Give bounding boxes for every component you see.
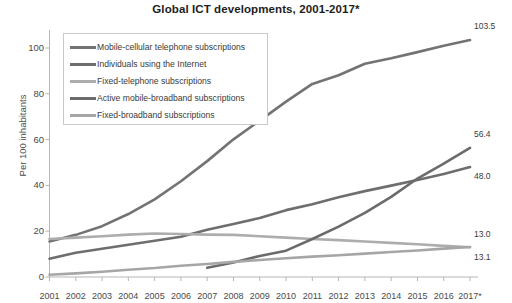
series-end-label: 56.4 <box>474 129 491 139</box>
x-tick-label: 2015 <box>407 291 427 301</box>
x-tick-label: 2001 <box>39 291 59 301</box>
legend-swatch-icon <box>70 97 96 100</box>
chart-legend: Mobile-cellular telephone subscriptionsI… <box>63 33 268 125</box>
legend-swatch-icon <box>70 46 96 49</box>
legend-label: Mobile-cellular telephone subscriptions <box>97 43 245 52</box>
series-line <box>50 247 471 275</box>
x-tick-label: 2006 <box>171 291 191 301</box>
legend-item[interactable]: Fixed-telephone subscriptions <box>70 73 267 90</box>
legend-item[interactable]: Individuals using the Internet <box>70 56 267 73</box>
series-end-label: 13.1 <box>474 252 491 262</box>
x-tick-label: 2017* <box>458 291 482 301</box>
x-tick-label: 2002 <box>66 291 86 301</box>
series-end-label: 13.0 <box>474 229 491 239</box>
legend-swatch-icon <box>70 114 96 117</box>
legend-label: Fixed-telephone subscriptions <box>97 77 211 86</box>
y-tick-label: 40 <box>14 180 44 190</box>
legend-swatch-icon <box>70 80 96 83</box>
x-tick-label: 2005 <box>145 291 165 301</box>
legend-label: Active mobile-broadband subscriptions <box>97 94 245 103</box>
x-tick-label: 2003 <box>92 291 112 301</box>
legend-label: Fixed-broadband subscriptions <box>97 111 215 120</box>
y-tick-label: 0 <box>14 272 44 282</box>
series-line <box>50 233 471 247</box>
x-tick-label: 2016 <box>434 291 454 301</box>
legend-item[interactable]: Fixed-broadband subscriptions <box>70 107 267 124</box>
x-tick-label: 2014 <box>381 291 401 301</box>
x-tick-label: 2013 <box>355 291 375 301</box>
y-tick-label: 80 <box>14 89 44 99</box>
legend-label: Individuals using the Internet <box>97 60 206 69</box>
x-tick-label: 2012 <box>329 291 349 301</box>
chart-title: Global ICT developments, 2001-2017* <box>0 3 512 15</box>
series-end-label: 103.5 <box>474 21 495 31</box>
x-tick-label: 2011 <box>303 291 322 301</box>
x-tick-label: 2009 <box>250 291 270 301</box>
x-tick-label: 2010 <box>276 291 296 301</box>
x-tick-label: 2008 <box>223 291 243 301</box>
legend-item[interactable]: Mobile-cellular telephone subscriptions <box>70 39 267 56</box>
legend-swatch-icon <box>70 63 96 66</box>
y-tick-label: 100 <box>14 43 44 53</box>
x-tick-label: 2007 <box>197 291 217 301</box>
ict-line-chart: Global ICT developments, 2001-2017* Per … <box>0 0 512 303</box>
legend-item[interactable]: Active mobile-broadband subscriptions <box>70 90 267 107</box>
x-tick-label: 2004 <box>118 291 138 301</box>
y-tick-label: 20 <box>14 226 44 236</box>
y-tick-label: 60 <box>14 135 44 145</box>
series-end-label: 48.0 <box>474 171 491 181</box>
